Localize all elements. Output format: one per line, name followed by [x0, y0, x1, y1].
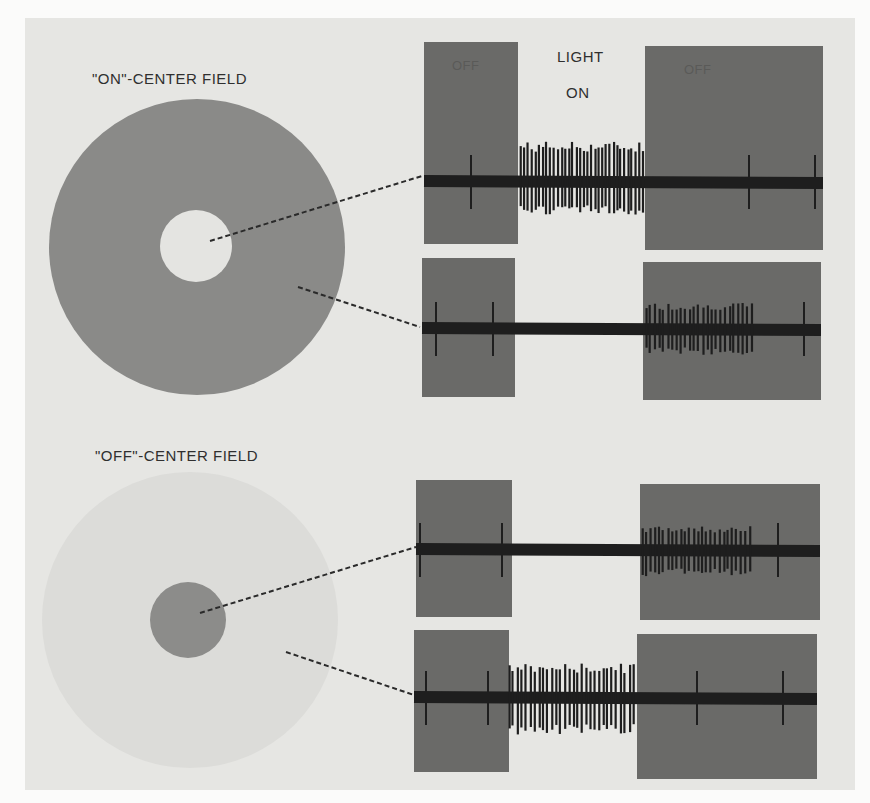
trace-1 — [424, 142, 823, 215]
pointer-line-1 — [210, 176, 422, 241]
spike-traces — [0, 0, 870, 803]
figure-canvas: "ON"-CENTER FIELD "OFF"-CENTER FIELD LIG… — [0, 0, 870, 803]
pointer-line-3 — [200, 547, 416, 613]
trace-3 — [416, 523, 820, 577]
trace-4 — [414, 664, 817, 735]
trace-2 — [422, 302, 821, 356]
pointer-line-2 — [298, 287, 420, 327]
pointer-line-4 — [286, 652, 414, 695]
